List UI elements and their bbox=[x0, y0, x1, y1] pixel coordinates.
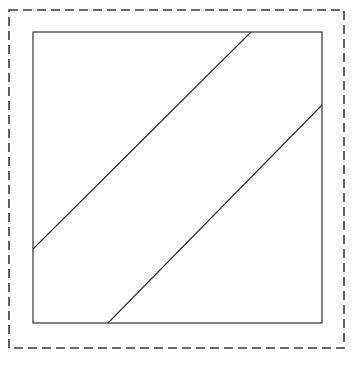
figure-background bbox=[0, 0, 360, 366]
figure-svg bbox=[0, 0, 360, 366]
figure-canvas bbox=[0, 0, 360, 366]
